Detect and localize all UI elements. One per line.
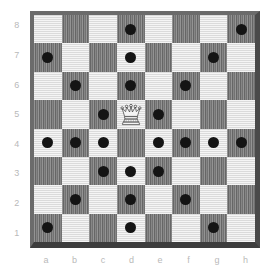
square-h3[interactable]: [227, 157, 255, 185]
square-a8[interactable]: [34, 15, 62, 43]
rank-label-6: 6: [6, 70, 28, 100]
square-h2[interactable]: [227, 185, 255, 213]
square-e4[interactable]: [145, 129, 173, 157]
attack-marker-dot-d6: [125, 80, 136, 91]
rank-label-1: 1: [6, 218, 28, 248]
attack-marker-dot-d8: [125, 24, 136, 35]
attack-marker-dot-c4: [98, 137, 109, 148]
square-b6[interactable]: [62, 72, 90, 100]
square-f5[interactable]: [172, 100, 200, 128]
square-a3[interactable]: [34, 157, 62, 185]
square-e8[interactable]: [145, 15, 173, 43]
square-f1[interactable]: [172, 214, 200, 242]
rank-label-3: 3: [6, 159, 28, 189]
square-c2[interactable]: [89, 185, 117, 213]
square-b7[interactable]: [62, 43, 90, 71]
square-g3[interactable]: [200, 157, 228, 185]
square-f8[interactable]: [172, 15, 200, 43]
attack-marker-dot-b2: [70, 194, 81, 205]
square-c1[interactable]: [89, 214, 117, 242]
square-f4[interactable]: [172, 129, 200, 157]
square-e3[interactable]: [145, 157, 173, 185]
square-a6[interactable]: [34, 72, 62, 100]
attack-marker-dot-c5: [98, 109, 109, 120]
square-f2[interactable]: [172, 185, 200, 213]
attack-marker-dot-g7: [208, 52, 219, 63]
file-labels: abcdefgh: [32, 252, 260, 268]
attack-marker-dot-a4: [42, 137, 53, 148]
rank-label-2: 2: [6, 189, 28, 219]
square-g5[interactable]: [200, 100, 228, 128]
square-d8[interactable]: [117, 15, 145, 43]
attack-marker-dot-c3: [98, 166, 109, 177]
square-e7[interactable]: [145, 43, 173, 71]
square-f7[interactable]: [172, 43, 200, 71]
rank-label-7: 7: [6, 41, 28, 71]
square-a2[interactable]: [34, 185, 62, 213]
square-c8[interactable]: [89, 15, 117, 43]
attack-marker-dot-h8: [236, 24, 247, 35]
file-label-h: h: [232, 252, 261, 268]
square-c7[interactable]: [89, 43, 117, 71]
attack-marker-dot-f6: [180, 80, 191, 91]
attack-marker-dot-a1: [42, 222, 53, 233]
file-label-c: c: [89, 252, 118, 268]
square-h7[interactable]: [227, 43, 255, 71]
attack-marker-dot-d3: [125, 166, 136, 177]
square-g7[interactable]: [200, 43, 228, 71]
square-a4[interactable]: [34, 129, 62, 157]
square-d1[interactable]: [117, 214, 145, 242]
square-g4[interactable]: [200, 129, 228, 157]
square-b8[interactable]: [62, 15, 90, 43]
square-e6[interactable]: [145, 72, 173, 100]
square-f6[interactable]: [172, 72, 200, 100]
white-queen-piece[interactable]: [118, 101, 144, 127]
square-g2[interactable]: [200, 185, 228, 213]
square-b4[interactable]: [62, 129, 90, 157]
square-h6[interactable]: [227, 72, 255, 100]
square-c5[interactable]: [89, 100, 117, 128]
square-a7[interactable]: [34, 43, 62, 71]
square-d3[interactable]: [117, 157, 145, 185]
square-h4[interactable]: [227, 129, 255, 157]
attack-marker-dot-e5: [153, 109, 164, 120]
square-d4[interactable]: [117, 129, 145, 157]
square-d2[interactable]: [117, 185, 145, 213]
attack-marker-dot-g1: [208, 222, 219, 233]
rank-labels: 87654321: [6, 11, 28, 248]
square-e5[interactable]: [145, 100, 173, 128]
square-c3[interactable]: [89, 157, 117, 185]
square-h5[interactable]: [227, 100, 255, 128]
square-b3[interactable]: [62, 157, 90, 185]
square-g1[interactable]: [200, 214, 228, 242]
square-b2[interactable]: [62, 185, 90, 213]
square-g6[interactable]: [200, 72, 228, 100]
square-e1[interactable]: [145, 214, 173, 242]
attack-marker-dot-a7: [42, 52, 53, 63]
attack-marker-dot-e4: [153, 137, 164, 148]
file-label-a: a: [32, 252, 61, 268]
square-f3[interactable]: [172, 157, 200, 185]
square-b5[interactable]: [62, 100, 90, 128]
square-d6[interactable]: [117, 72, 145, 100]
board-frame: [30, 11, 260, 248]
file-label-d: d: [118, 252, 147, 268]
square-a5[interactable]: [34, 100, 62, 128]
square-a1[interactable]: [34, 214, 62, 242]
file-label-b: b: [61, 252, 90, 268]
square-g8[interactable]: [200, 15, 228, 43]
file-label-f: f: [175, 252, 204, 268]
square-c6[interactable]: [89, 72, 117, 100]
square-b1[interactable]: [62, 214, 90, 242]
square-h1[interactable]: [227, 214, 255, 242]
square-e2[interactable]: [145, 185, 173, 213]
square-h8[interactable]: [227, 15, 255, 43]
attack-marker-dot-b6: [70, 80, 81, 91]
rank-label-4: 4: [6, 130, 28, 160]
square-c4[interactable]: [89, 129, 117, 157]
attack-marker-dot-d1: [125, 222, 136, 233]
attack-marker-dot-h4: [236, 137, 247, 148]
square-d5[interactable]: [117, 100, 145, 128]
board-grid: [34, 15, 255, 242]
square-d7[interactable]: [117, 43, 145, 71]
